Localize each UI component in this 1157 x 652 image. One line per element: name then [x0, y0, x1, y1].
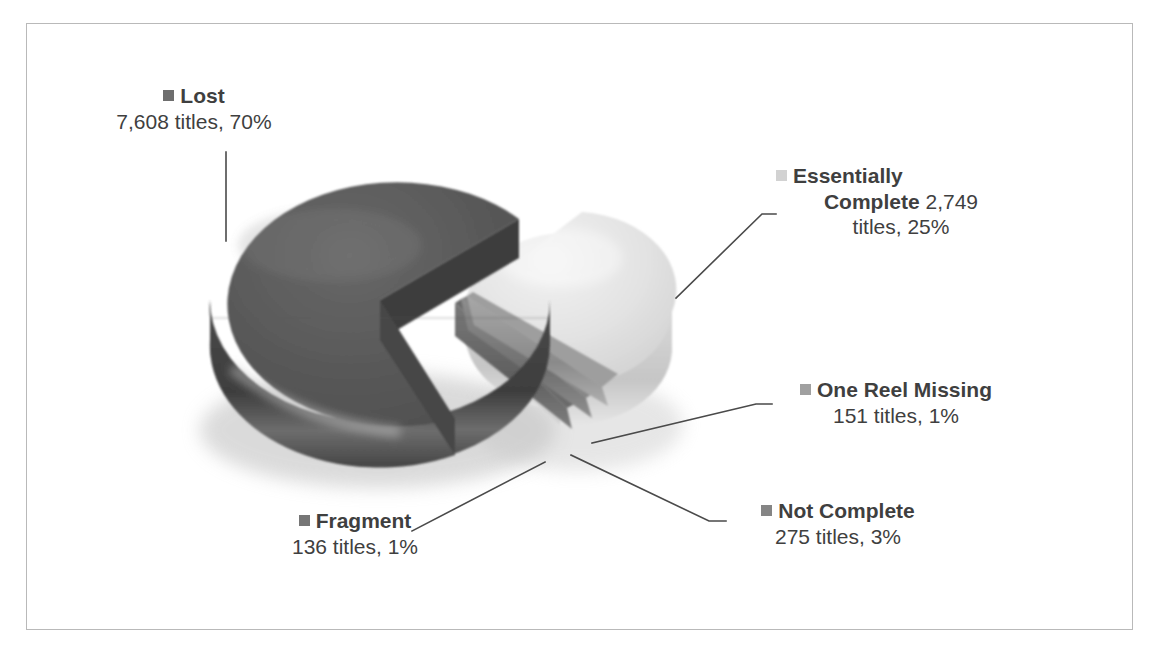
label-line-name-1: Essentially — [776, 163, 1026, 189]
label-name-essentially-line2: Complete — [824, 190, 920, 213]
label-line-name: Not Complete — [712, 498, 964, 524]
data-label-essentially-complete: Essentially Complete 2,749 titles, 25% — [776, 163, 1026, 240]
leader-line-essentially-complete — [676, 214, 776, 298]
label-name-essentially-line1: Essentially — [793, 164, 903, 187]
label-value-fragment: 136 titles, 1% — [222, 534, 488, 560]
label-line-name: Lost — [63, 83, 325, 109]
label-line-name: One Reel Missing — [760, 377, 1032, 403]
data-label-lost: Lost 7,608 titles, 70% — [63, 83, 325, 134]
label-value-not-complete: 275 titles, 3% — [712, 524, 964, 550]
legend-marker-not-complete-icon — [761, 505, 772, 516]
legend-marker-one-reel-missing-icon — [800, 384, 811, 395]
label-line-name: Fragment — [222, 508, 488, 534]
label-name-lost: Lost — [180, 84, 224, 107]
label-name-one-reel-missing: One Reel Missing — [817, 378, 992, 401]
data-label-one-reel-missing: One Reel Missing 151 titles, 1% — [760, 377, 1032, 428]
data-label-fragment: Fragment 136 titles, 1% — [222, 508, 488, 559]
label-value-lost: 7,608 titles, 70% — [63, 109, 325, 135]
pie-chart-figure: Lost 7,608 titles, 70% Essentially Compl… — [0, 0, 1157, 652]
legend-marker-lost-icon — [163, 90, 174, 101]
label-name-fragment: Fragment — [316, 509, 412, 532]
label-line-name-2: Complete 2,749 — [776, 189, 1026, 215]
label-value-one-reel-missing: 151 titles, 1% — [760, 403, 1032, 429]
data-label-not-complete: Not Complete 275 titles, 3% — [712, 498, 964, 549]
legend-marker-essentially-complete-icon — [776, 170, 787, 181]
label-value-essentially-line2: titles, 25% — [776, 214, 1026, 240]
legend-marker-fragment-icon — [299, 515, 310, 526]
label-value-essentially-part: 2,749 — [920, 190, 978, 213]
label-name-not-complete: Not Complete — [778, 499, 915, 522]
